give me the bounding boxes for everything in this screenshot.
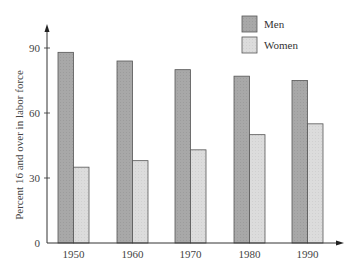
legend-swatch-men (242, 16, 257, 32)
bar-women-1980 (250, 135, 266, 243)
x-tick-label: 1990 (297, 248, 320, 260)
legend-label-men: Men (264, 18, 285, 30)
bar-men-1970 (175, 70, 191, 243)
bar-men-1980 (234, 76, 250, 243)
x-tick-label: 1980 (239, 248, 262, 260)
y-axis-arrow-icon (45, 24, 50, 32)
y-tick-label: 90 (29, 42, 41, 54)
bar-women-1950 (74, 167, 90, 243)
y-axis-title: Percent 16 and over in labor force (13, 70, 25, 220)
x-tick-label: 1950 (63, 248, 86, 260)
legend: MenWomen (242, 16, 298, 53)
x-axis-arrow-icon (336, 241, 344, 246)
bar-men-1960 (117, 61, 133, 243)
y-tick-label: 30 (29, 172, 41, 184)
bar-women-1990 (308, 124, 324, 243)
y-tick-label: 0 (35, 237, 41, 249)
bar-men-1950 (58, 52, 74, 243)
bar-women-1960 (133, 161, 149, 243)
bar-men-1990 (292, 81, 308, 244)
y-tick-label: 60 (29, 107, 41, 119)
bars-group (58, 52, 323, 243)
x-tick-label: 1960 (122, 248, 145, 260)
bar-women-1970 (191, 150, 207, 243)
legend-label-women: Women (264, 39, 298, 51)
x-tick-label: 1970 (180, 248, 203, 260)
bar-chart: 0306090 19501960197019801990 Percent 16 … (0, 0, 353, 271)
x-ticks: 19501960197019801990 (63, 248, 320, 260)
legend-swatch-women (242, 37, 257, 53)
